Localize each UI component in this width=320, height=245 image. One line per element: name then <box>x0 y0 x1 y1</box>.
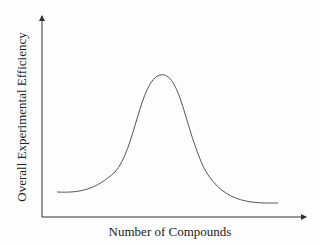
chart-plot <box>0 0 320 245</box>
x-axis-label: Number of Compounds <box>109 224 232 240</box>
efficiency-curve <box>57 75 278 203</box>
chart-figure: Overall Experimental Efficiency Number o… <box>0 0 320 245</box>
y-axis-label: Overall Experimental Efficiency <box>14 32 30 201</box>
